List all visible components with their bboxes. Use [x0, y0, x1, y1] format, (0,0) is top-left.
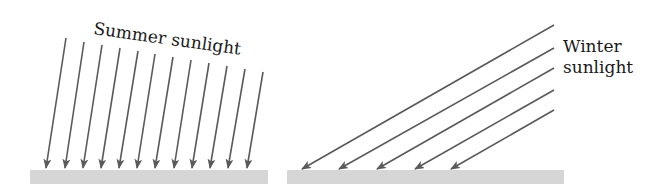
- summer-sun-rays: [46, 38, 263, 168]
- summer-ground-surface: [30, 170, 268, 184]
- summer-ray-arrow-icon: [101, 48, 120, 168]
- winter-panel: Winter sunlight: [287, 25, 633, 184]
- summer-ray-arrow-icon: [155, 57, 173, 168]
- summer-ray-arrow-icon: [247, 72, 263, 168]
- winter-ray-arrow-icon: [377, 68, 554, 169]
- summer-ray-arrow-icon: [119, 51, 138, 168]
- winter-sunlight-label-line2: sunlight: [563, 57, 633, 77]
- summer-ray-arrow-icon: [192, 63, 209, 168]
- winter-ray-arrow-icon: [302, 25, 554, 169]
- summer-ray-arrow-icon: [65, 42, 84, 168]
- winter-sun-rays: [302, 25, 554, 169]
- summer-ray-arrow-icon: [46, 38, 66, 168]
- summer-panel: Summer sunlight: [30, 18, 268, 184]
- summer-sunlight-label: Summer sunlight: [92, 18, 242, 59]
- summer-ray-arrow-icon: [210, 66, 227, 168]
- winter-ground-surface: [287, 170, 564, 184]
- summer-ray-arrow-icon: [228, 69, 245, 168]
- sunlight-angle-diagram: Summer sunlight Winter sunlight: [0, 0, 652, 193]
- summer-ray-arrow-icon: [83, 45, 102, 168]
- summer-ray-arrow-icon: [137, 54, 155, 168]
- summer-ray-arrow-icon: [174, 60, 191, 168]
- winter-ray-arrow-icon: [415, 90, 554, 169]
- winter-sunlight-label-line1: Winter: [563, 36, 622, 56]
